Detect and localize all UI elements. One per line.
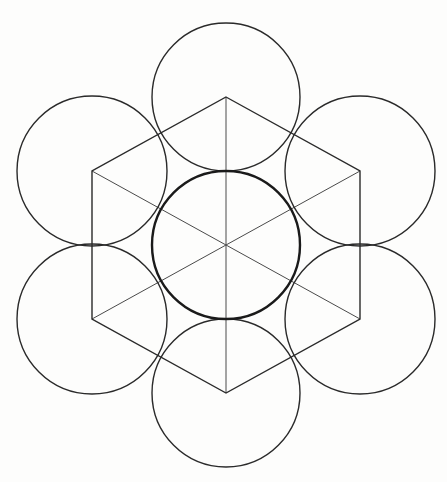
spokes-group: [92, 97, 360, 393]
geometry-diagram: [0, 0, 447, 482]
